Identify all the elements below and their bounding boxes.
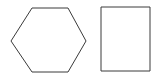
shape-figure-canvas — [0, 0, 160, 77]
canvas-background — [0, 0, 160, 77]
shapes-diagram — [0, 0, 160, 77]
